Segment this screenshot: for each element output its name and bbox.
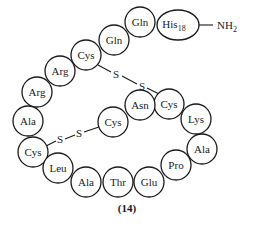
peptide-diagram: S S S S Gln His18 NH2 Gln Cys Arg Arg Al… bbox=[0, 0, 253, 233]
svg-text:Cys: Cys bbox=[77, 49, 94, 61]
residue-cys-inner: Cys bbox=[98, 107, 128, 137]
residue-asn: Asn bbox=[125, 90, 155, 120]
ss-bond-2b bbox=[65, 135, 75, 139]
residue-cys-right: Cys bbox=[154, 89, 184, 119]
ss-bond-1a bbox=[98, 65, 111, 72]
n-terminus-nh2: NH2 bbox=[217, 19, 237, 34]
sulfur-atom: S bbox=[57, 133, 63, 145]
svg-text:Ala: Ala bbox=[194, 143, 210, 155]
residue-arg-lower: Arg bbox=[22, 77, 52, 107]
residue-cys-top: Cys bbox=[71, 40, 101, 70]
residue-thr: Thr bbox=[103, 167, 133, 197]
residue-gln-upper: Gln bbox=[125, 7, 155, 37]
residue-ala-left: Ala bbox=[13, 106, 43, 136]
ss-bond-2c bbox=[84, 127, 99, 132]
sulfur-atom: S bbox=[76, 127, 82, 139]
residue-ala-right: Ala bbox=[187, 134, 217, 164]
svg-text:Cys: Cys bbox=[104, 116, 121, 128]
svg-text:Lys: Lys bbox=[188, 113, 204, 125]
svg-text:Leu: Leu bbox=[49, 162, 67, 174]
svg-text:Pro: Pro bbox=[168, 159, 184, 171]
residue-his18: His18 bbox=[157, 10, 199, 40]
residue-pro: Pro bbox=[161, 150, 191, 180]
residue-arg-upper: Arg bbox=[45, 56, 75, 86]
svg-text:Glu: Glu bbox=[141, 176, 158, 188]
residue-gln-lower: Gln bbox=[99, 25, 129, 55]
svg-text:Gln: Gln bbox=[106, 34, 123, 46]
sulfur-atom: S bbox=[113, 68, 119, 80]
compound-number-caption: (14) bbox=[118, 202, 137, 215]
svg-text:Arg: Arg bbox=[29, 86, 46, 98]
svg-text:Ala: Ala bbox=[78, 176, 94, 188]
svg-text:Arg: Arg bbox=[52, 65, 69, 77]
svg-text:Thr: Thr bbox=[110, 176, 126, 188]
svg-text:Asn: Asn bbox=[131, 99, 149, 111]
ss-bond-1b bbox=[122, 76, 137, 84]
residue-leu: Leu bbox=[43, 153, 73, 183]
residue-glu: Glu bbox=[134, 167, 164, 197]
ss-bond-2a bbox=[46, 141, 56, 146]
residue-lys: Lys bbox=[181, 104, 211, 134]
svg-text:Cys: Cys bbox=[24, 146, 41, 158]
svg-text:Cys: Cys bbox=[160, 98, 177, 110]
residue-ala-bottom: Ala bbox=[71, 167, 101, 197]
svg-text:Gln: Gln bbox=[132, 16, 149, 28]
svg-text:NH2: NH2 bbox=[217, 19, 237, 34]
svg-text:Ala: Ala bbox=[20, 115, 36, 127]
